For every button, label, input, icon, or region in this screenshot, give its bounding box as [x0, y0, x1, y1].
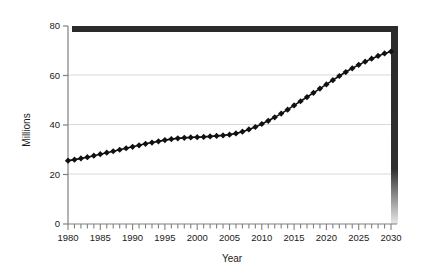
- frame-right-shadow: [391, 26, 398, 224]
- x-tick-label-2025: 2025: [348, 232, 369, 243]
- x-tick-label-1980: 1980: [57, 232, 78, 243]
- x-tick-label-1995: 1995: [154, 232, 175, 243]
- x-tick-label-2030: 2030: [380, 232, 401, 243]
- y-axis-title: Millions: [21, 113, 32, 146]
- x-tick-label-1985: 1985: [90, 232, 111, 243]
- x-axis-title: Year: [222, 253, 243, 264]
- x-axis-tick-labels: 1980198519901995200020052010201520202025…: [57, 232, 401, 243]
- x-tick-label-2020: 2020: [316, 232, 337, 243]
- x-tick-label-1990: 1990: [122, 232, 143, 243]
- chart-container: 020406080 198019851990199520002005201020…: [0, 0, 435, 276]
- line-chart: 020406080 198019851990199520002005201020…: [0, 0, 435, 276]
- y-tick-label-60: 60: [49, 70, 60, 81]
- x-tick-label-2015: 2015: [284, 232, 305, 243]
- frame-top-shadow: [72, 26, 397, 32]
- x-tick-label-2000: 2000: [187, 232, 208, 243]
- x-tick-label-2010: 2010: [251, 232, 272, 243]
- y-tick-label-40: 40: [49, 119, 60, 130]
- y-tick-label-80: 80: [49, 20, 60, 31]
- y-tick-label-20: 20: [49, 169, 60, 180]
- y-tick-label-0: 0: [55, 218, 60, 229]
- x-tick-label-2005: 2005: [219, 232, 240, 243]
